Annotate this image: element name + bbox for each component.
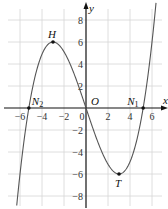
point-h-label: H	[47, 28, 57, 40]
y-tick-label: −8	[72, 191, 83, 202]
y-tick-label: −2	[72, 125, 83, 136]
point-n2-label: N2	[31, 95, 43, 109]
point-t-marker	[117, 172, 121, 176]
cubic-function-graph: −6−4−20246−8−6−4−22468 x y O H T N1 N2	[0, 0, 168, 209]
y-axis-label: y	[88, 2, 94, 14]
x-axis-arrow-icon	[161, 106, 168, 111]
x-tick-label: −4	[37, 111, 48, 122]
point-h-marker	[51, 40, 55, 44]
y-tick-label: 4	[78, 59, 83, 70]
y-tick-label: 6	[78, 37, 83, 48]
x-tick-label: 4	[128, 111, 133, 122]
y-tick-label: −4	[72, 147, 83, 158]
y-tick-label: 8	[78, 15, 83, 26]
y-tick-label: −6	[72, 169, 83, 180]
point-n1-marker	[141, 106, 145, 110]
point-n2-marker	[27, 106, 31, 110]
point-n1-label: N1	[126, 95, 138, 109]
x-tick-label: −2	[59, 111, 70, 122]
y-axis-arrow-icon	[84, 2, 89, 9]
x-axis-label: x	[162, 94, 168, 106]
x-tick-label: 6	[150, 111, 155, 122]
point-t-label: T	[115, 177, 122, 189]
origin-label: O	[91, 95, 99, 107]
x-tick-label: 0	[80, 111, 85, 122]
x-tick-label: −6	[15, 111, 26, 122]
x-tick-label: 2	[106, 111, 111, 122]
